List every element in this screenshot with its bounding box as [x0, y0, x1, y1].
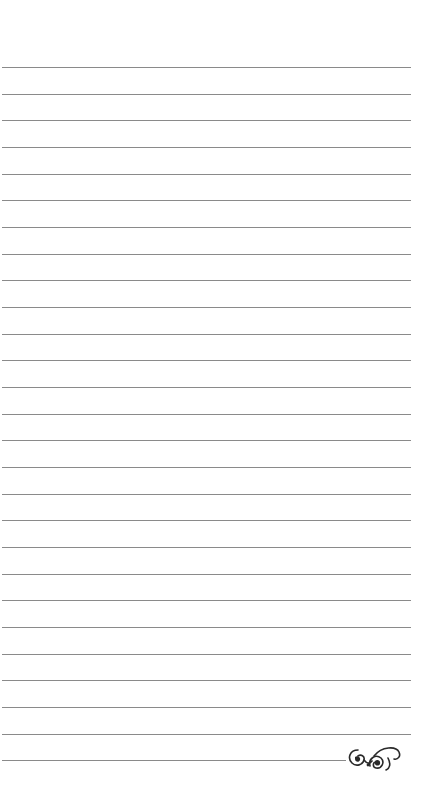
ruled-line: [2, 467, 411, 468]
ruled-line: [2, 520, 411, 521]
ruled-line-short: [2, 760, 346, 761]
ruled-line: [2, 254, 411, 255]
ruled-line: [2, 734, 411, 735]
ruled-line: [2, 680, 411, 681]
ruled-line: [2, 414, 411, 415]
ruled-line: [2, 147, 411, 148]
ruled-line: [2, 67, 411, 68]
flourish-ornament-icon: [344, 744, 404, 772]
ruled-line: [2, 360, 411, 361]
ruled-line: [2, 600, 411, 601]
ruled-line: [2, 174, 411, 175]
lined-paper: [0, 0, 438, 792]
ruled-line: [2, 654, 411, 655]
ruled-line: [2, 227, 411, 228]
ruled-line: [2, 94, 411, 95]
ruled-line: [2, 280, 411, 281]
ruled-line: [2, 120, 411, 121]
ruled-line: [2, 494, 411, 495]
ruled-line: [2, 627, 411, 628]
ruled-line: [2, 334, 411, 335]
ruled-line: [2, 200, 411, 201]
ruled-line: [2, 707, 411, 708]
ruled-line: [2, 307, 411, 308]
ruled-line: [2, 387, 411, 388]
ruled-line: [2, 574, 411, 575]
ruled-line: [2, 547, 411, 548]
ruled-line: [2, 440, 411, 441]
